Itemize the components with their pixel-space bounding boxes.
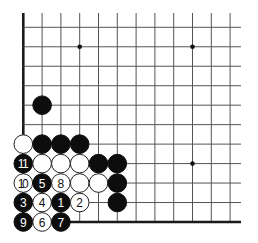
white-stone xyxy=(52,154,71,173)
black-stone-icon xyxy=(108,154,127,173)
white-stone-icon xyxy=(70,174,89,193)
black-stone-icon xyxy=(108,174,127,193)
white-stone-icon xyxy=(14,135,33,154)
black-stone-icon xyxy=(52,135,71,154)
move-number-label: 6 xyxy=(39,216,46,230)
black-stone xyxy=(108,193,127,212)
white-stone-icon xyxy=(52,154,71,173)
black-stone xyxy=(52,135,71,154)
black-stone-1: 1 xyxy=(52,193,71,212)
black-stone-icon xyxy=(70,135,89,154)
move-number-label: 2 xyxy=(76,196,83,210)
white-stone-10: 10 xyxy=(14,174,33,193)
go-board-diagram: 1110583412967 xyxy=(0,0,258,243)
move-number-label: 3 xyxy=(20,196,27,210)
move-number-label: 9 xyxy=(20,216,27,230)
white-stone-icon xyxy=(70,154,89,173)
black-stone-icon xyxy=(108,193,127,212)
black-stone-11: 11 xyxy=(14,154,33,173)
black-stone-3: 3 xyxy=(14,193,33,212)
black-stone xyxy=(108,154,127,173)
white-stone-8: 8 xyxy=(52,174,71,193)
stones-layer: 1110583412967 xyxy=(14,96,127,231)
white-stone-2: 2 xyxy=(70,193,89,212)
move-number-label: 10 xyxy=(18,177,29,191)
black-stone xyxy=(89,154,108,173)
white-stone xyxy=(70,154,89,173)
star-point-icon xyxy=(190,161,195,166)
black-stone xyxy=(70,135,89,154)
black-stone-icon xyxy=(33,96,52,115)
white-stone-icon xyxy=(33,154,52,173)
black-stone xyxy=(33,135,52,154)
move-number-label: 5 xyxy=(39,177,46,191)
move-number-label: 8 xyxy=(58,177,65,191)
move-number-label: 4 xyxy=(39,196,46,210)
black-stone-icon xyxy=(33,135,52,154)
white-stone-icon xyxy=(89,174,108,193)
black-stone xyxy=(108,174,127,193)
black-stone xyxy=(33,96,52,115)
move-number-label: 7 xyxy=(58,216,65,230)
white-stone xyxy=(70,174,89,193)
star-point-icon xyxy=(190,44,195,49)
black-stone-icon xyxy=(89,154,108,173)
star-point-icon xyxy=(77,44,82,49)
white-stone xyxy=(89,174,108,193)
black-stone-5: 5 xyxy=(33,174,52,193)
move-number-label: 11 xyxy=(18,157,29,171)
white-stone xyxy=(33,154,52,173)
black-stone-9: 9 xyxy=(14,213,33,232)
white-stone-4: 4 xyxy=(33,193,52,212)
black-stone-7: 7 xyxy=(52,213,71,232)
white-stone-6: 6 xyxy=(33,213,52,232)
move-number-label: 1 xyxy=(58,196,65,210)
white-stone xyxy=(14,135,33,154)
